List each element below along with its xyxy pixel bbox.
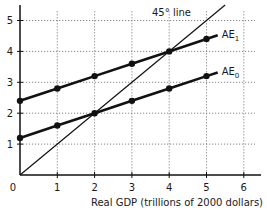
x-tick-label: 2	[91, 182, 97, 193]
data-point	[17, 135, 23, 141]
x-tick-label: 6	[241, 182, 247, 193]
y-tick-label: 2	[7, 108, 13, 119]
series-line-extension	[207, 35, 218, 39]
x-tick-label: 3	[129, 182, 135, 193]
series-label-ae0: AE0	[222, 66, 240, 80]
y-tick-label: 5	[7, 15, 13, 26]
annotation-45-degree-line: 45° line	[152, 7, 191, 18]
data-point	[54, 85, 60, 91]
data-point	[91, 73, 97, 79]
series-line-ae1	[20, 39, 207, 101]
x-tick-label: 1	[54, 182, 60, 193]
labels: 012345612345Real GDP (trillions of 2000 …	[7, 7, 263, 208]
grid-lines	[20, 11, 255, 175]
x-tick-label: 5	[203, 182, 209, 193]
chart: 012345612345Real GDP (trillions of 2000 …	[0, 0, 267, 210]
series-line-ae0	[20, 76, 207, 138]
data-series	[17, 5, 225, 175]
data-point	[54, 122, 60, 128]
data-point	[166, 85, 172, 91]
x-tick-label: 0	[10, 182, 16, 193]
x-axis-title: Real GDP (trillions of 2000 dollars)	[91, 197, 263, 208]
y-tick-label: 3	[7, 77, 13, 88]
data-point	[129, 98, 135, 104]
series-label-ae1: AE1	[222, 29, 240, 43]
y-tick-label: 4	[7, 46, 13, 57]
data-point	[17, 98, 23, 104]
y-tick-label: 1	[7, 139, 13, 150]
data-point	[129, 61, 135, 67]
x-tick-label: 4	[166, 182, 172, 193]
series-line-extension	[207, 72, 218, 76]
